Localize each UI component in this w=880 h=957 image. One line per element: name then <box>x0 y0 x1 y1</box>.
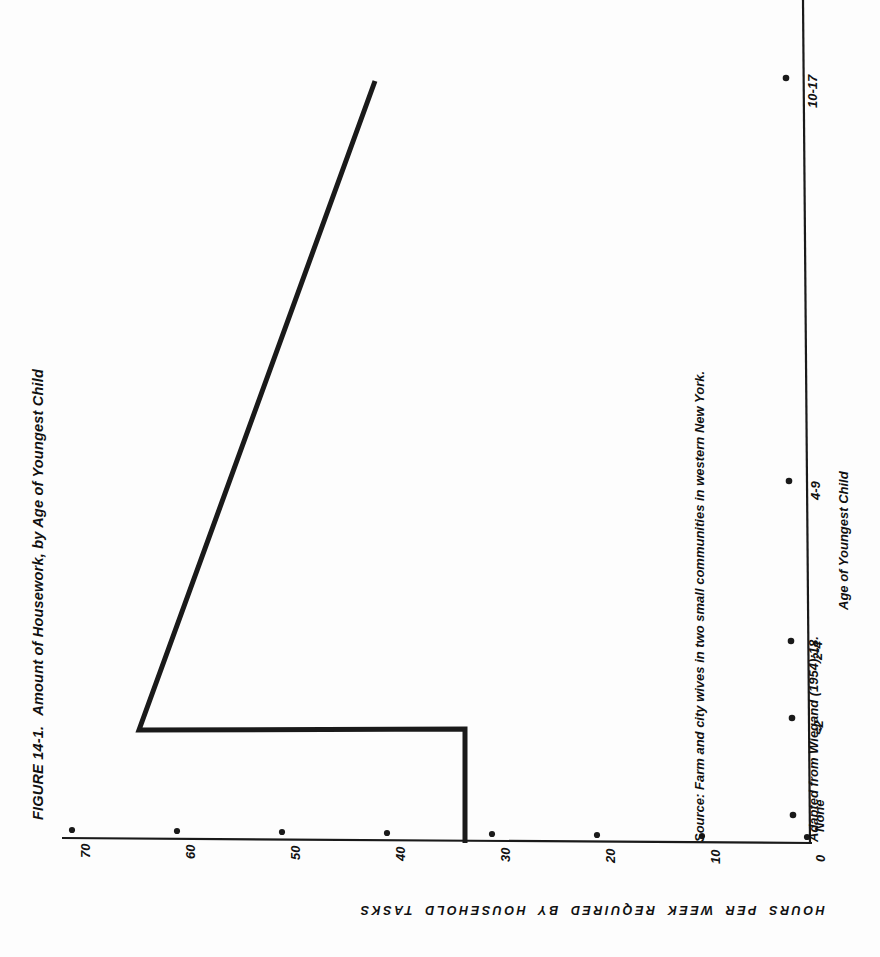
category-label-10-17: 10-17 <box>805 75 820 108</box>
source-note: Source: Farm and city wives in two small… <box>692 371 707 842</box>
adapted-note: Adapted from Wiegand (1954):18. <box>806 636 821 842</box>
hours-tick-20: 20 <box>603 849 618 863</box>
hours-tick-60: 60 <box>183 845 198 859</box>
data-line-series <box>139 81 465 843</box>
chart-plot-area: 70 60 50 40 30 20 10 0 None <2 2-4 4-9 1… <box>0 0 880 957</box>
hours-tick-40: 40 <box>393 847 408 861</box>
x-axis-title: Age of Youngest Child <box>836 471 851 610</box>
figure-page: FIGURE 14-1.Amount of Housework, by Age … <box>0 0 880 957</box>
hours-tick-10: 10 <box>708 850 723 864</box>
category-label-4-9: 4-9 <box>808 481 823 500</box>
hours-tick-0: 0 <box>813 855 828 862</box>
hours-tick-50: 50 <box>288 846 303 860</box>
hours-tick-30: 30 <box>498 848 513 862</box>
chart-svg <box>0 0 880 957</box>
category-axis-ticks <box>783 75 797 819</box>
hours-tick-70: 70 <box>78 844 93 858</box>
y-axis-title: HOURS PER WEEK REQUIRED BY HOUSEHOLD TAS… <box>358 903 825 917</box>
